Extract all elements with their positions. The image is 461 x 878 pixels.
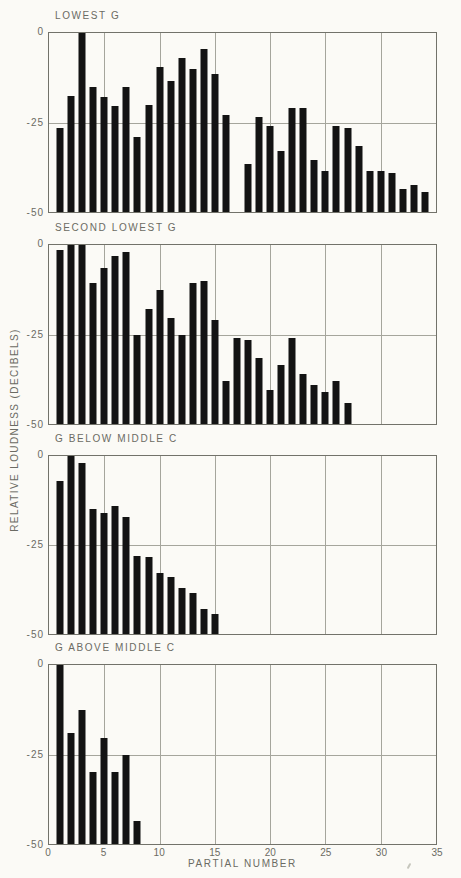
y-tick-label: 0 bbox=[0, 450, 44, 460]
bar-partial-2 bbox=[68, 245, 75, 424]
bar-partial-4 bbox=[90, 772, 97, 844]
bar-partial-9 bbox=[145, 309, 152, 424]
panel-plot-area bbox=[48, 244, 437, 425]
bar-partial-10 bbox=[156, 573, 163, 634]
bar-partial-30 bbox=[377, 171, 384, 212]
bar-partial-22 bbox=[289, 338, 296, 424]
bar-partial-16 bbox=[222, 115, 229, 212]
bar-partial-12 bbox=[178, 335, 185, 425]
y-tick-label: 0 bbox=[0, 27, 44, 37]
bar-partial-9 bbox=[145, 105, 152, 212]
bar-partial-29 bbox=[366, 171, 373, 212]
bar-partial-17 bbox=[233, 338, 240, 424]
bar-partial-23 bbox=[300, 374, 307, 424]
bar-partial-25 bbox=[322, 171, 329, 212]
bar-partial-34 bbox=[421, 192, 428, 212]
panel-plot-area bbox=[48, 455, 437, 635]
bar-partial-3 bbox=[79, 463, 86, 634]
panel-title: SECOND LOWEST G bbox=[55, 222, 177, 233]
bar-partial-22 bbox=[289, 108, 296, 212]
bar-partial-15 bbox=[211, 614, 218, 634]
bar-partial-14 bbox=[200, 609, 207, 634]
bar-partial-7 bbox=[123, 517, 130, 634]
bar-partial-1 bbox=[57, 250, 64, 424]
bar-partial-6 bbox=[112, 256, 119, 424]
bar-partial-1 bbox=[57, 665, 64, 844]
bar-partial-5 bbox=[101, 97, 108, 212]
bar-partial-26 bbox=[333, 126, 340, 212]
bar-partial-4 bbox=[90, 87, 97, 212]
y-tick-label: -50 bbox=[0, 420, 44, 430]
bar-partial-32 bbox=[399, 189, 406, 212]
bar-partial-3 bbox=[79, 710, 86, 844]
bar-partial-9 bbox=[145, 557, 152, 634]
y-tick-label: -25 bbox=[0, 330, 44, 340]
bar-partial-13 bbox=[189, 69, 196, 212]
x-tick-label: 30 bbox=[369, 848, 393, 858]
x-tick-label: 15 bbox=[203, 848, 227, 858]
bar-partial-26 bbox=[333, 381, 340, 424]
y-tick-label: -25 bbox=[0, 118, 44, 128]
bar-partial-5 bbox=[101, 738, 108, 844]
x-tick-label: 35 bbox=[425, 848, 449, 858]
bar-partial-19 bbox=[256, 117, 263, 212]
bar-partial-25 bbox=[322, 392, 329, 424]
bar-partial-5 bbox=[101, 268, 108, 424]
bar-partial-11 bbox=[167, 577, 174, 634]
y-tick-label: 0 bbox=[0, 239, 44, 249]
x-tick-label: 5 bbox=[92, 848, 116, 858]
bar-partial-5 bbox=[101, 513, 108, 634]
bar-partial-6 bbox=[112, 106, 119, 212]
bar-partial-10 bbox=[156, 67, 163, 212]
bar-partial-6 bbox=[112, 772, 119, 844]
bar-partial-6 bbox=[112, 506, 119, 634]
bar-partial-23 bbox=[300, 108, 307, 212]
bar-partial-8 bbox=[134, 137, 141, 212]
y-tick-label: -50 bbox=[0, 630, 44, 640]
bar-partial-16 bbox=[222, 381, 229, 424]
bar-partial-4 bbox=[90, 509, 97, 634]
bar-partial-12 bbox=[178, 588, 185, 634]
panel-plot-area bbox=[48, 664, 437, 845]
bar-partial-13 bbox=[189, 593, 196, 634]
panel-plot-area bbox=[48, 32, 437, 213]
bar-partial-14 bbox=[200, 49, 207, 212]
bar-partial-7 bbox=[123, 252, 130, 424]
bar-partial-27 bbox=[344, 128, 351, 212]
bar-partial-24 bbox=[311, 385, 318, 424]
bar-partial-13 bbox=[189, 283, 196, 424]
bar-partial-19 bbox=[256, 358, 263, 424]
bar-partial-7 bbox=[123, 755, 130, 845]
bar-partial-10 bbox=[156, 290, 163, 424]
bar-partial-8 bbox=[134, 821, 141, 844]
panel-title: G ABOVE MIDDLE C bbox=[55, 642, 176, 653]
bar-partial-8 bbox=[134, 335, 141, 425]
bar-partial-33 bbox=[410, 185, 417, 212]
bar-partial-7 bbox=[123, 87, 130, 212]
bar-partial-11 bbox=[167, 318, 174, 424]
bar-partial-20 bbox=[267, 390, 274, 424]
bar-partial-18 bbox=[245, 164, 252, 212]
bar-partial-21 bbox=[278, 365, 285, 424]
bar-partial-15 bbox=[211, 74, 218, 212]
bar-partial-11 bbox=[167, 81, 174, 212]
x-tick-label: 25 bbox=[314, 848, 338, 858]
bar-partial-21 bbox=[278, 151, 285, 212]
bar-partial-20 bbox=[267, 126, 274, 212]
bar-partial-14 bbox=[200, 281, 207, 424]
x-tick-label: 20 bbox=[258, 848, 282, 858]
bar-partial-27 bbox=[344, 403, 351, 424]
bar-partial-2 bbox=[68, 96, 75, 212]
bar-partial-3 bbox=[79, 33, 86, 212]
y-axis-label: RELATIVE LOUDNESS (DECIBELS) bbox=[9, 328, 20, 532]
bar-partial-12 bbox=[178, 58, 185, 212]
y-tick-label: -25 bbox=[0, 540, 44, 550]
bar-partial-18 bbox=[245, 340, 252, 424]
bar-partial-3 bbox=[79, 245, 86, 424]
x-tick-label: 10 bbox=[147, 848, 171, 858]
y-tick-label: -50 bbox=[0, 208, 44, 218]
bar-partial-1 bbox=[57, 481, 64, 634]
bar-partial-4 bbox=[90, 283, 97, 424]
bar-partial-1 bbox=[57, 128, 64, 212]
bar-partial-24 bbox=[311, 160, 318, 212]
